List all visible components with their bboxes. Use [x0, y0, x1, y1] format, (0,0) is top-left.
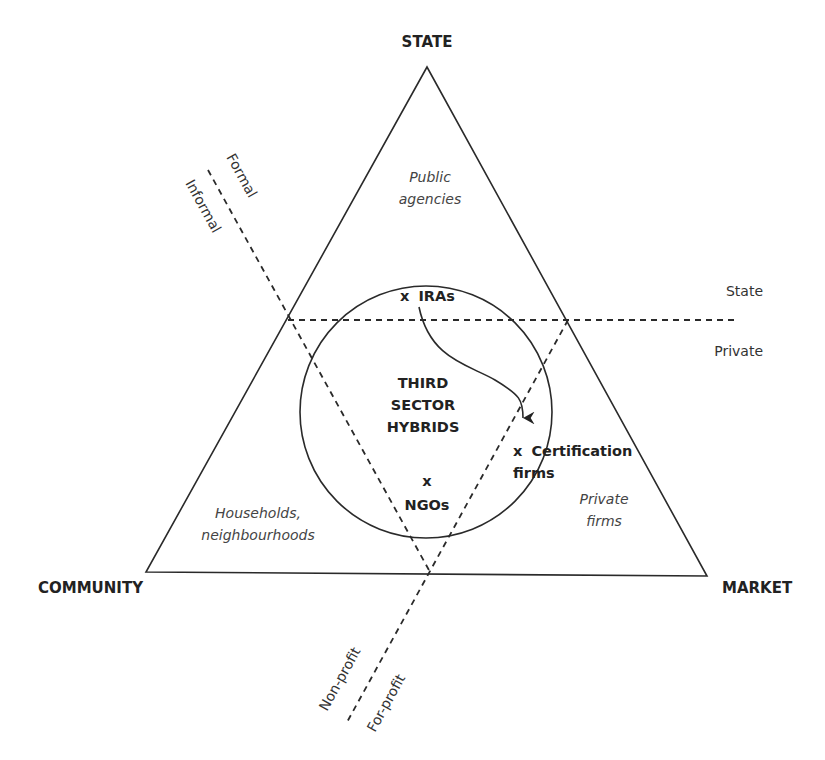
hybrid-title-1: THIRD	[398, 375, 449, 391]
hybrid-item-certification-line2: firms	[513, 465, 555, 481]
sector-market-label-1: Private	[579, 491, 628, 507]
hybrid-item-iras: x IRAs	[400, 288, 455, 304]
profit-divider	[346, 320, 568, 724]
divider-informal-label: Informal	[182, 177, 224, 236]
vertex-community-label: COMMUNITY	[38, 579, 144, 597]
divider-state-label: State	[726, 283, 763, 299]
hybrid-item-certification: x Certification	[513, 443, 632, 459]
iras-marker: x	[400, 288, 410, 304]
sector-community-label-1: Households,	[215, 505, 301, 521]
divider-nonprofit-label: Non-profit	[316, 644, 364, 714]
certification-marker: x	[513, 443, 523, 459]
sector-community-label-2: neighbourhoods	[201, 527, 314, 543]
divider-private-label: Private	[714, 343, 763, 359]
hybrid-title-3: HYBRIDS	[387, 419, 460, 435]
hybrid-title-2: SECTOR	[391, 397, 455, 413]
vertex-market-label: MARKET	[722, 579, 793, 597]
welfare-triangle-diagram: STATE COMMUNITY MARKET Public agencies H…	[0, 0, 825, 760]
hybrid-item-ngos-label: NGOs	[405, 497, 450, 513]
divider-formal-label: Formal	[223, 151, 260, 201]
iras-label: IRAs	[418, 288, 454, 304]
sector-state-label-1: Public	[409, 169, 451, 185]
hybrid-item-ngos-marker: x	[422, 473, 432, 489]
sector-market-label-2: firms	[586, 513, 622, 529]
vertex-state-label: STATE	[402, 33, 453, 51]
sector-state-label-2: agencies	[399, 191, 461, 207]
certification-label: Certification	[531, 443, 632, 459]
